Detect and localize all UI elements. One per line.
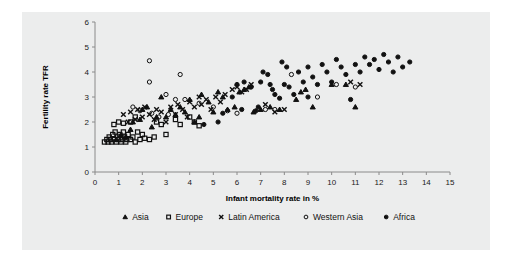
data-point-asia xyxy=(303,87,308,91)
data-point-western-asia xyxy=(164,92,168,96)
legend-label-europe: Europe xyxy=(176,212,204,222)
data-point-asia xyxy=(216,90,221,94)
data-point-africa xyxy=(202,122,206,126)
legend-label-western-asia: Western Asia xyxy=(313,212,363,222)
data-point-africa xyxy=(339,65,343,69)
data-point-africa xyxy=(306,95,310,99)
data-point-africa xyxy=(287,85,291,89)
data-point-western-asia xyxy=(315,95,319,99)
chart-figure: 01234560123456789101112131415Infant mort… xyxy=(22,12,490,250)
data-point-africa xyxy=(306,65,310,69)
data-point-western-asia xyxy=(334,82,338,86)
data-point-europe xyxy=(117,120,121,124)
data-point-africa xyxy=(344,72,348,76)
y-tick-label: 1 xyxy=(85,143,90,152)
x-tick-label: 15 xyxy=(446,178,455,187)
data-point-europe xyxy=(164,132,168,136)
data-point-asia xyxy=(159,95,164,99)
data-point-europe xyxy=(121,121,125,125)
data-point-asia xyxy=(232,105,237,109)
data-point-africa xyxy=(216,120,220,124)
data-point-africa xyxy=(382,52,386,56)
x-tick-label: 6 xyxy=(235,178,240,187)
legend-marker-europe xyxy=(167,215,171,219)
data-point-africa xyxy=(292,92,296,96)
data-point-africa xyxy=(285,65,289,69)
x-tick-label: 7 xyxy=(258,178,263,187)
x-axis-title: Infant mortality rate in % xyxy=(226,194,319,203)
data-point-europe xyxy=(152,135,156,139)
data-point-africa xyxy=(325,70,329,74)
data-point-africa xyxy=(330,80,334,84)
data-point-asia xyxy=(310,105,315,109)
data-point-asia xyxy=(353,105,358,109)
data-point-europe xyxy=(147,137,151,141)
data-point-africa xyxy=(270,87,274,91)
data-point-asia xyxy=(277,107,282,111)
scatter-plot-area: 01234560123456789101112131415Infant mort… xyxy=(22,12,490,250)
data-point-western-asia xyxy=(147,59,151,63)
data-point-africa xyxy=(259,80,263,84)
data-point-africa xyxy=(348,97,352,101)
data-point-africa xyxy=(391,70,395,74)
x-tick-label: 13 xyxy=(398,178,407,187)
data-point-africa xyxy=(266,72,270,76)
data-point-africa xyxy=(353,62,357,66)
data-point-africa xyxy=(334,57,338,61)
data-point-africa xyxy=(401,65,405,69)
data-point-africa xyxy=(315,82,319,86)
data-point-africa xyxy=(282,82,286,86)
data-point-western-asia xyxy=(211,105,215,109)
data-point-western-asia xyxy=(263,107,267,111)
data-point-western-asia xyxy=(147,80,151,84)
data-point-africa xyxy=(320,62,324,66)
data-point-western-asia xyxy=(273,107,277,111)
data-point-western-asia xyxy=(166,112,170,116)
data-point-asia xyxy=(268,105,273,109)
data-point-africa xyxy=(363,55,367,59)
x-tick-label: 10 xyxy=(327,178,336,187)
data-point-europe xyxy=(159,122,163,126)
y-axis-title: Fertility rate TFR xyxy=(41,65,50,129)
data-point-africa xyxy=(311,75,315,79)
legend-label-latin-america: Latin America xyxy=(228,212,280,222)
x-tick-label: 2 xyxy=(140,178,145,187)
y-tick-label: 3 xyxy=(85,93,90,102)
data-point-europe xyxy=(135,130,139,134)
data-point-africa xyxy=(256,105,260,109)
data-point-europe xyxy=(138,137,142,141)
legend-label-asia: Asia xyxy=(132,212,149,222)
data-point-asia xyxy=(294,97,299,101)
x-tick-label: 4 xyxy=(187,178,192,187)
data-point-europe xyxy=(173,117,177,121)
data-point-asia xyxy=(149,125,154,129)
data-point-africa xyxy=(396,55,400,59)
x-tick-label: 1 xyxy=(116,178,121,187)
data-point-africa xyxy=(240,107,244,111)
data-point-asia xyxy=(197,115,202,119)
data-point-africa xyxy=(386,60,390,64)
x-tick-label: 14 xyxy=(422,178,431,187)
data-point-africa xyxy=(367,62,371,66)
data-point-africa xyxy=(249,85,253,89)
data-point-western-asia xyxy=(178,72,182,76)
data-point-asia xyxy=(128,127,133,131)
legend-marker-asia xyxy=(123,215,128,219)
data-point-africa xyxy=(377,67,381,71)
data-point-africa xyxy=(277,96,281,100)
data-point-africa xyxy=(273,92,277,96)
data-point-africa xyxy=(242,80,246,84)
y-tick-label: 4 xyxy=(85,68,90,77)
data-point-africa xyxy=(372,57,376,61)
y-tick-label: 6 xyxy=(85,18,90,27)
data-point-africa xyxy=(280,60,284,64)
data-point-western-asia xyxy=(131,105,135,109)
data-point-europe xyxy=(112,122,116,126)
x-tick-label: 5 xyxy=(211,178,216,187)
legend-marker-western-asia xyxy=(304,215,308,219)
y-tick-label: 2 xyxy=(85,118,90,127)
data-point-europe xyxy=(133,140,137,144)
legend-label-africa: Africa xyxy=(393,212,415,222)
data-point-asia xyxy=(343,82,348,86)
data-point-africa xyxy=(296,70,300,74)
